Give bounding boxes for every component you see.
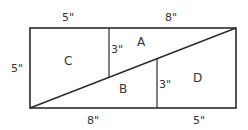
dimension-left-side: 5" [11, 62, 23, 75]
region-label-c: C [64, 54, 72, 68]
region-label-a: A [137, 35, 146, 49]
rectangle-diagram: 5" 8" 5" 8" 5" 3" 3" A B C D [0, 0, 248, 130]
dimension-inner-right: 3" [159, 78, 171, 91]
dimension-bottom-right: 5" [193, 114, 205, 127]
diagonal-line [30, 28, 236, 108]
dimension-inner-left: 3" [111, 43, 123, 56]
region-label-b: B [119, 82, 127, 96]
dimension-top-right: 8" [165, 11, 177, 24]
region-label-d: D [193, 71, 202, 85]
dimension-top-left: 5" [62, 11, 74, 24]
dimension-bottom-left: 8" [87, 114, 99, 127]
